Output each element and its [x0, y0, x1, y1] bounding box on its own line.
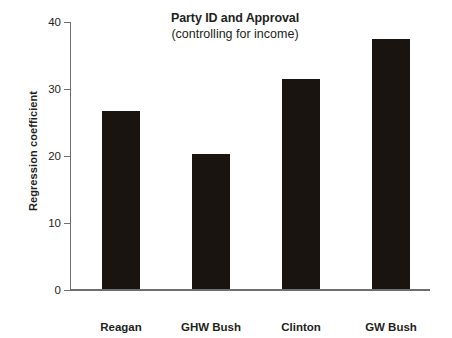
x-tick-label-ghw-bush: GHW Bush [181, 321, 241, 333]
bar-reagan [102, 111, 141, 289]
y-tick-label: 40 [48, 16, 61, 28]
y-axis-line [70, 22, 71, 290]
bar-chart-figure: Party ID and Approval (controlling for i… [0, 0, 452, 338]
y-tick-mark [64, 22, 70, 23]
y-tick-label: 20 [48, 150, 61, 162]
x-tick-label-clinton: Clinton [281, 321, 321, 333]
bar-gw-bush [372, 39, 411, 289]
x-axis-line [70, 289, 430, 291]
y-tick-label: 10 [48, 217, 61, 229]
plot-area: 0 10 20 30 40 Reagan GHW Bush Clinton GW… [70, 22, 430, 290]
y-tick-mark [64, 156, 70, 157]
y-tick-label: 0 [55, 284, 61, 296]
x-tick-label-gw-bush: GW Bush [365, 321, 417, 333]
y-axis-title: Regression coefficient [27, 41, 39, 261]
bar-ghw-bush [192, 154, 231, 289]
x-tick-label-reagan: Reagan [100, 321, 142, 333]
y-tick-mark [64, 89, 70, 90]
bar-clinton [282, 79, 321, 289]
y-tick-label: 30 [48, 83, 61, 95]
y-tick-mark [64, 223, 70, 224]
y-tick-mark [64, 290, 70, 291]
